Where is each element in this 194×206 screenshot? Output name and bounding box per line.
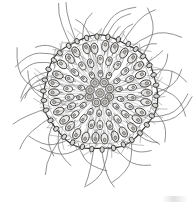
flagellum [131, 33, 182, 48]
scientific-figure [0, 0, 194, 206]
flagellum [155, 70, 182, 93]
rim-cell-body [84, 35, 89, 42]
somatic-cell-nucleus [132, 86, 135, 89]
somatic-cell-nucleus [65, 87, 68, 90]
daughter-colony-tick [95, 95, 96, 96]
rim-cell-body [153, 83, 159, 88]
rim-cell-body [40, 89, 46, 93]
rim-cell [74, 38, 80, 45]
somatic-cell-nucleus [103, 138, 106, 142]
daughter-colony-core [88, 88, 93, 93]
daughter-colony-core [93, 81, 98, 86]
rim-cell [95, 33, 99, 39]
rim-cell-body [74, 38, 80, 45]
rim-cell-body [65, 42, 72, 49]
flagellum [13, 108, 47, 124]
daughter-colony-tick [113, 85, 114, 86]
rim-cell-body [45, 66, 52, 72]
somatic-cell [105, 56, 113, 66]
daughter-colony-tick [106, 92, 107, 93]
rim-cell [65, 42, 72, 49]
rim-cell [41, 98, 47, 103]
flagellum [100, 7, 135, 38]
rim-cell-body [95, 33, 99, 39]
daughter-colony-core [107, 95, 112, 100]
somatic-cell [97, 110, 102, 117]
rim-cell [100, 147, 104, 153]
somatic-cell [81, 131, 91, 144]
flagellum [114, 146, 150, 165]
somatic-cell-nucleus [51, 91, 55, 94]
somatic-cell [120, 109, 131, 119]
daughter-colony [94, 87, 106, 99]
somatic-cell [105, 71, 113, 80]
daughter-colony-core [98, 91, 103, 96]
rim-cell-body [105, 34, 110, 40]
somatic-cell-nucleus [98, 113, 100, 115]
somatic-cell [124, 102, 135, 111]
daughter-colony-tick [104, 90, 105, 91]
somatic-cell [115, 86, 123, 92]
cell-flagellum [57, 115, 70, 116]
somatic-cell-nucleus [79, 86, 82, 89]
rim-cell [89, 146, 94, 152]
rim-cell [45, 66, 52, 72]
daughter-colony-tick [101, 78, 102, 79]
daughter-colony-tick [108, 79, 109, 80]
rim-cell-body [79, 143, 85, 150]
daughter-colony-core [102, 80, 107, 85]
daughter-colony-tick [102, 97, 103, 98]
daughter-colony-tick [99, 85, 100, 86]
daughter-colony-tick [112, 100, 113, 101]
somatic-cell-nucleus [78, 96, 81, 98]
daughter-colony-core [94, 100, 99, 105]
somatic-cell [134, 69, 147, 80]
flagellum [58, 3, 71, 46]
somatic-cell [63, 85, 73, 92]
daughter-colony-core [103, 100, 108, 105]
rim-cell [84, 35, 89, 42]
somatic-cell [101, 133, 109, 145]
rim-cell [40, 89, 46, 93]
somatic-cell [98, 70, 103, 77]
somatic-cell-nucleus [146, 91, 150, 94]
rim-cell-body [154, 94, 160, 99]
rim-cell [79, 143, 85, 150]
rim-cell [105, 34, 110, 40]
daughter-colonies-group [83, 77, 115, 108]
somatic-cell-nucleus [104, 43, 107, 47]
daughter-colony-tick [112, 92, 113, 93]
rim-cell-body [89, 146, 94, 152]
somatic-cell-nucleus [99, 125, 101, 128]
rim-cell [154, 94, 160, 99]
somatic-cell-nucleus [99, 57, 101, 60]
daughter-colony-tick [97, 88, 98, 89]
somatic-cell [76, 94, 84, 100]
somatic-cell [116, 95, 124, 102]
rim-cell-body [41, 98, 47, 103]
somatic-cell [112, 60, 122, 71]
somatic-cell-nucleus [120, 98, 123, 101]
daughter-colony-tick [102, 97, 103, 98]
daughter-colony-tick [92, 105, 93, 106]
somatic-cell-nucleus [146, 101, 150, 104]
rim-cell [132, 46, 139, 53]
somatic-cell [79, 101, 88, 109]
rim-cell-body [132, 46, 139, 53]
somatic-cell [48, 89, 59, 96]
somatic-cell [106, 120, 114, 130]
daughter-colony-tick [107, 106, 108, 107]
daughter-colony-tick [84, 99, 85, 100]
rim-cell-body [100, 147, 104, 153]
daughter-colony-core [107, 86, 112, 91]
somatic-cell-nucleus [67, 96, 70, 99]
volvox-colony-illustration [0, 0, 194, 206]
somatic-cell-nucleus [119, 88, 122, 90]
somatic-cell [140, 98, 152, 107]
page-smudge-artifact [162, 196, 188, 202]
somatic-cell [97, 121, 103, 130]
somatic-cell-nucleus [93, 45, 96, 49]
daughter-colony-tick [97, 86, 98, 87]
somatic-cell-nucleus [99, 72, 101, 74]
cell-flagellum [134, 106, 149, 107]
